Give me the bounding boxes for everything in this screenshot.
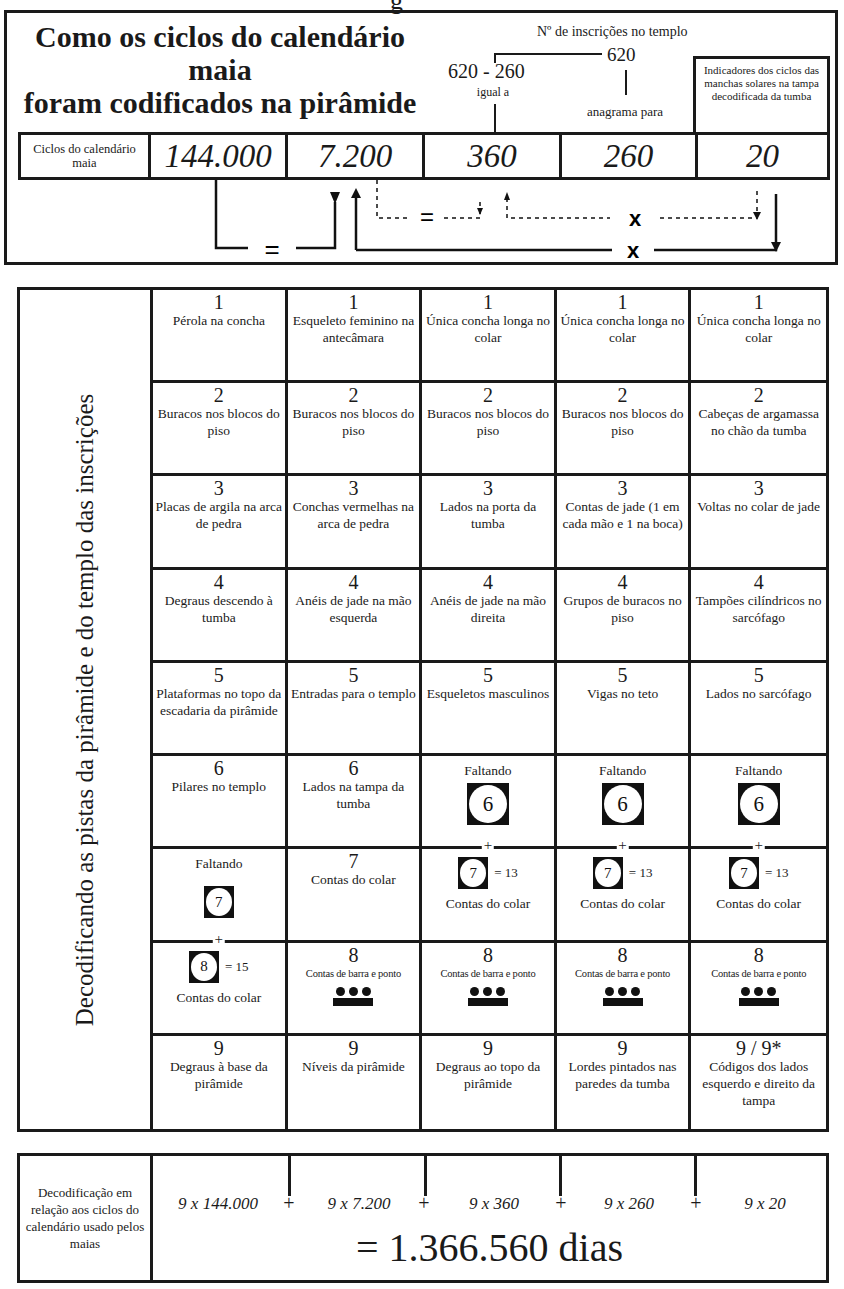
- clue-description: Única concha longa no colar: [557, 312, 689, 346]
- grid-cell: 2Buracos nos blocos do piso: [288, 383, 423, 476]
- clue-count: 4: [557, 572, 689, 592]
- clue-count: 5: [422, 665, 554, 685]
- clue-count: 5: [288, 665, 420, 685]
- clues-grid: Decodificando as pistas da pirâmide e do…: [17, 287, 829, 1132]
- clue-count: 8: [691, 945, 826, 965]
- clue-description: Esqueletos masculinos: [422, 685, 554, 702]
- clue-description: Contas de jade (1 em cada mão e 1 na boc…: [557, 498, 689, 532]
- clue-description: Degraus ao topo da pirâmide: [422, 1058, 554, 1092]
- grid-cell: + 7 = 13 Contas do colar: [422, 849, 557, 942]
- missing-label: Faltando: [153, 855, 285, 872]
- grid-cell: 9Degraus ao topo da pirâmide: [422, 1036, 557, 1129]
- grid-cell: 4Grupos de buracos no piso: [557, 570, 692, 663]
- grid-side-label: Decodificando as pistas da pirâmide e do…: [20, 290, 153, 1129]
- clue-count: 7: [288, 851, 420, 871]
- cycle-cell: 20: [698, 135, 827, 177]
- cycle-value: 144.000: [164, 138, 271, 175]
- clue-description: Pérola na concha: [153, 312, 285, 329]
- sum-result: = 13: [765, 865, 789, 881]
- glyph-number: 6: [740, 785, 778, 823]
- times-symbol-inner: x: [629, 206, 642, 231]
- clue-count: 5: [691, 665, 826, 685]
- title-line-2: foram codificados na pirâmide: [10, 86, 430, 119]
- sum-result: = 13: [629, 865, 653, 881]
- grid-cell: 3Voltas no colar de jade: [691, 476, 826, 569]
- glyph-number: 7: [731, 859, 757, 887]
- clue-description: Grupos de buracos no piso: [557, 592, 689, 626]
- missing-number-glyph: 7: [204, 886, 234, 918]
- clue-count: 1: [288, 292, 420, 312]
- times-symbol-outer: x: [627, 238, 640, 258]
- equals-symbol-inner: =: [420, 203, 434, 230]
- column-tick: [694, 1156, 697, 1196]
- clue-count: 5: [153, 665, 285, 685]
- grid-cell: 9Lordes pintados nas paredes da tumba: [557, 1036, 692, 1129]
- grid-cell: 3Placas de argila na arca de pedra: [153, 476, 288, 569]
- decoding-summary-main: 9 x 144.000 + 9 x 7.200 + 9 x 360 + 9 x …: [153, 1156, 826, 1280]
- inscriptions-label: Nº de inscrições no templo: [537, 24, 688, 40]
- clue-description: Degraus descendo à tumba: [153, 592, 285, 626]
- clue-description: Degraus à base da pirâmide: [153, 1058, 285, 1092]
- clue-count: 2: [153, 385, 285, 405]
- sum-row: 7 = 13: [422, 857, 554, 889]
- bar-and-dot-numeral-icon: [468, 987, 508, 1006]
- missing-number-glyph: 6: [467, 783, 509, 825]
- clue-count: 4: [691, 572, 826, 592]
- plus-operator: +: [418, 1192, 429, 1215]
- grid-cell: Faltando6: [557, 756, 692, 849]
- clue-count: 9: [288, 1038, 420, 1058]
- glyph-number: 8: [191, 953, 217, 981]
- decoding-summary-box: Decodificação em relação aos ciclos do c…: [17, 1153, 829, 1283]
- missing-label: Faltando: [557, 762, 689, 779]
- clue-description: Códigos dos lados esquerdo e direito da …: [691, 1058, 826, 1109]
- grid-cell: 2Buracos nos blocos do piso: [557, 383, 692, 476]
- clue-description: Buracos nos blocos do piso: [557, 405, 689, 439]
- clue-count: 2: [288, 385, 420, 405]
- grid-cell: 9 / 9*Códigos dos lados esquerdo e direi…: [691, 1036, 826, 1129]
- sum-row: 7 = 13: [557, 857, 689, 889]
- grid-cell: 2Cabeças de argamassa no chão da tumba: [691, 383, 826, 476]
- grid-cell: 5Esqueletos masculinos: [422, 663, 557, 756]
- clue-count: 1: [153, 292, 285, 312]
- plus-operator: +: [555, 1192, 566, 1215]
- clue-description: Única concha longa no colar: [422, 312, 554, 346]
- clue-count: 3: [557, 478, 689, 498]
- grid-cell: 8Contas de barra e ponto: [557, 943, 692, 1036]
- clue-description: Contas de barra e ponto: [422, 965, 554, 982]
- grid-cell: 2Buracos nos blocos do piso: [422, 383, 557, 476]
- clue-description: Contas do colar: [557, 895, 689, 912]
- cycle-cell: 360: [425, 135, 562, 177]
- clue-count: 3: [288, 478, 420, 498]
- clue-description: Contas de barra e ponto: [288, 965, 420, 982]
- subtraction-expression: 620 - 260: [448, 60, 525, 83]
- title-line-1: Como os ciclos do calendário maia: [10, 20, 430, 86]
- clue-count: 4: [153, 572, 285, 592]
- cycle-cell: 7.200: [288, 135, 425, 177]
- product-term: 9 x 20: [744, 1194, 786, 1214]
- glyph-number: 7: [206, 888, 232, 916]
- diagram-title: Como os ciclos do calendário maia foram …: [10, 20, 430, 119]
- grid-cell: 7Contas do colar: [288, 849, 423, 942]
- clue-count: 6: [153, 758, 285, 778]
- column-tick: [288, 1156, 291, 1196]
- clue-count: 3: [153, 478, 285, 498]
- grid-cell: 8Contas de barra e ponto: [422, 943, 557, 1036]
- total-days: = 1.366.560 dias: [153, 1224, 826, 1271]
- anagram-label: anagrama para: [560, 104, 690, 120]
- glyph-number: 7: [595, 859, 621, 887]
- clue-description: Cabeças de argamassa no chão da tumba: [691, 405, 826, 439]
- plus-operator: +: [690, 1192, 701, 1215]
- clue-description: Contas de barra e ponto: [691, 965, 826, 982]
- clue-count: 4: [288, 572, 420, 592]
- clue-count: 9 / 9*: [691, 1038, 826, 1058]
- cycle-value: 7.200: [318, 138, 392, 175]
- bar-and-dot-numeral-icon: [603, 987, 643, 1006]
- grid-cell: Faltando6: [691, 756, 826, 849]
- grid-cell: 4Tampões cilíndricos no sarcófago: [691, 570, 826, 663]
- clue-description: Níveis da pirâmide: [288, 1058, 420, 1075]
- sum-result: = 13: [494, 865, 518, 881]
- decoding-summary-label: Decodificação em relação aos ciclos do c…: [20, 1156, 153, 1280]
- cycle-cell: 144.000: [151, 135, 288, 177]
- plus-operator: +: [283, 1192, 294, 1215]
- relationship-arrows: = x = x: [0, 178, 844, 258]
